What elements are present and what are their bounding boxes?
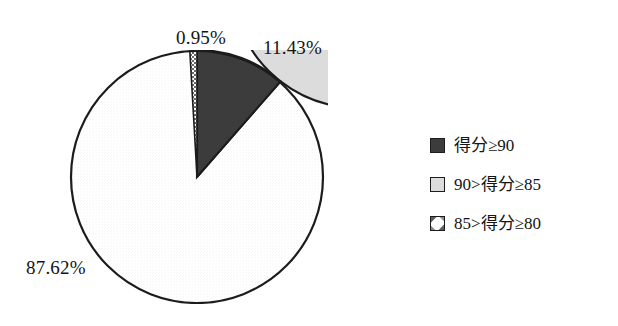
legend-swatch-light-gray-icon bbox=[430, 177, 445, 192]
pie-label-87-62-percent: 87.62% bbox=[26, 258, 86, 277]
pie-svg bbox=[66, 50, 328, 304]
legend-label-85-80: 85>得分≥80 bbox=[454, 215, 541, 232]
legend-label-ge-90: 得分≥90 bbox=[454, 137, 514, 154]
legend: 得分≥90 90>得分≥85 85>得分≥80 bbox=[430, 133, 610, 236]
pie-label-0-95-percent: 0.95% bbox=[176, 28, 226, 47]
legend-item-85-80: 85>得分≥80 bbox=[430, 211, 610, 236]
legend-item-ge-90: 得分≥90 bbox=[430, 133, 610, 158]
legend-swatch-dark-gray-icon bbox=[430, 138, 445, 153]
pie-chart-graphic bbox=[66, 50, 328, 304]
legend-swatch-checkered-icon bbox=[430, 216, 445, 231]
pie-grain-overlay bbox=[71, 51, 323, 303]
pie-label-11-43-percent: 11.43% bbox=[263, 38, 322, 57]
legend-item-90-85: 90>得分≥85 bbox=[430, 172, 610, 197]
legend-label-90-85: 90>得分≥85 bbox=[454, 176, 541, 193]
pie-chart-figure: 0.95% 11.43% 87.62% 得分≥90 90>得分≥85 bbox=[0, 0, 618, 326]
